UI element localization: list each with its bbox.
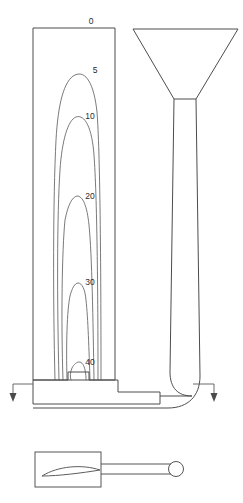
left-outflow-arrow — [10, 384, 34, 402]
return-duct — [33, 99, 200, 408]
contour-label-10: 10 — [85, 111, 95, 121]
flow-arrows — [10, 384, 218, 402]
airfoil-model-inset — [35, 452, 184, 487]
contour-label-30: 30 — [85, 277, 95, 287]
contour-label-5: 5 — [93, 65, 98, 75]
mount-circle — [169, 462, 184, 477]
test-section-duct — [33, 28, 115, 380]
contour-label-20: 20 — [85, 191, 95, 201]
base-plenum — [33, 372, 160, 404]
figure-root: 0 5 10 20 30 40 — [0, 0, 243, 503]
airfoil-section — [42, 467, 100, 476]
contour-level-40 — [70, 362, 86, 380]
tunnel-schematic: 0 5 10 20 30 40 — [0, 0, 243, 503]
inlet-funnel — [133, 29, 238, 99]
contour-level-10 — [58, 117, 98, 380]
model-test-box — [35, 452, 101, 487]
contour-label-0: 0 — [89, 16, 94, 26]
contour-label-40: 40 — [85, 357, 95, 367]
sting-support — [101, 464, 171, 474]
